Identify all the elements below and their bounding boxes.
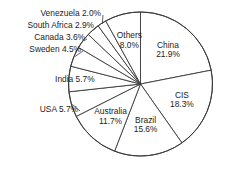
slice-label-south-africa: South Africa 2.9% xyxy=(27,20,94,30)
slice-value-cis: 18.3% xyxy=(170,99,194,109)
slice-value-others: 8.0% xyxy=(120,40,140,50)
slice-label-australia: Australia xyxy=(94,106,127,116)
slice-value-china: 21.9% xyxy=(156,49,180,59)
slice-label-canada: Canada 3.6% xyxy=(34,32,85,42)
slice-label-venezuela: Venezuela 2.0% xyxy=(40,8,101,18)
slice-label-cis: CIS xyxy=(175,90,189,100)
slice-label-usa: USA 5.7% xyxy=(40,104,79,114)
pie-chart-figure: China 21.9% CIS 18.3% Brazil 15.6% Austr… xyxy=(0,0,228,174)
slice-label-sweden: Sweden 4.5% xyxy=(29,44,81,54)
pie-chart-svg: China 21.9% CIS 18.3% Brazil 15.6% Austr… xyxy=(0,0,228,174)
slice-label-brazil: Brazil xyxy=(135,115,156,125)
slice-value-brazil: 15.6% xyxy=(134,124,158,134)
slice-label-india: India 5.7% xyxy=(55,74,95,84)
slice-value-australia: 11.7% xyxy=(99,116,123,126)
slice-label-others: Others xyxy=(117,30,142,40)
slice-label-china: China xyxy=(157,40,179,50)
